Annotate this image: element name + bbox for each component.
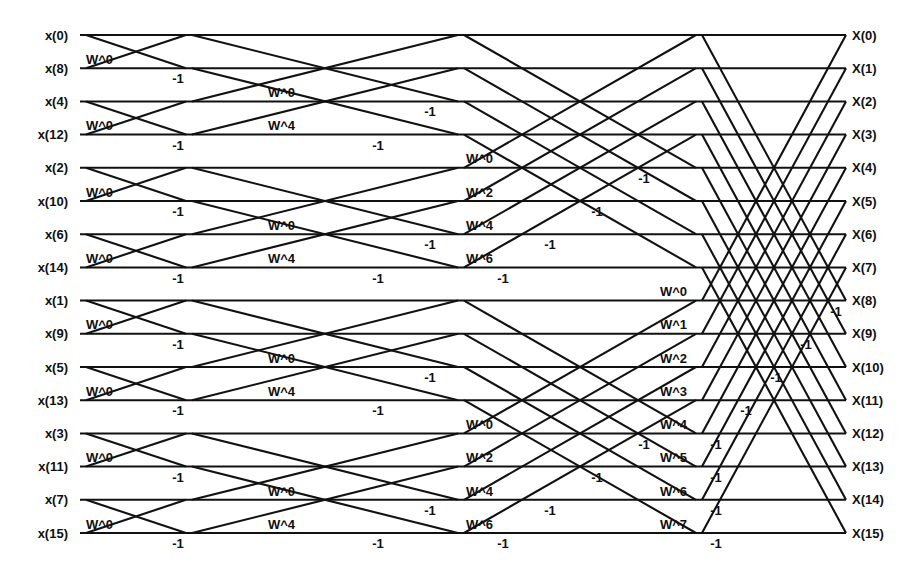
twiddle-factor-label: W^0 bbox=[660, 284, 687, 299]
minus-one-label: -1 bbox=[172, 536, 184, 551]
twiddle-factor-label: W^1 bbox=[660, 317, 687, 332]
minus-one-label: -1 bbox=[424, 503, 436, 518]
minus-one-label: -1 bbox=[372, 536, 384, 551]
minus-one-label: -1 bbox=[172, 204, 184, 219]
minus-one-label: -1 bbox=[591, 204, 603, 219]
twiddle-factor-label: W^4 bbox=[660, 417, 688, 432]
minus-one-label: -1 bbox=[424, 237, 436, 252]
minus-one-label: -1 bbox=[800, 337, 812, 352]
minus-one-label: -1 bbox=[372, 403, 384, 418]
twiddle-factor-label: W^6 bbox=[466, 251, 493, 266]
minus-one-label: -1 bbox=[172, 403, 184, 418]
output-label: X(6) bbox=[852, 227, 877, 242]
output-label: X(11) bbox=[852, 393, 883, 408]
twiddle-factor-label: W^3 bbox=[660, 384, 687, 399]
minus-one-label: -1 bbox=[372, 271, 384, 286]
twiddle-factor-label: W^0 bbox=[86, 384, 113, 399]
output-label: X(4) bbox=[852, 160, 877, 175]
twiddle-factor-label: W^0 bbox=[86, 52, 113, 67]
minus-one-label: -1 bbox=[591, 470, 603, 485]
minus-one-label: -1 bbox=[638, 171, 650, 186]
signal-rails-group bbox=[80, 35, 846, 533]
input-label: x(9) bbox=[45, 326, 68, 341]
input-label: x(13) bbox=[38, 393, 68, 408]
input-label: x(11) bbox=[38, 459, 68, 474]
output-label: X(7) bbox=[852, 260, 877, 275]
twiddle-factor-label: W^0 bbox=[86, 185, 113, 200]
output-label: X(0) bbox=[852, 28, 877, 43]
input-label: x(4) bbox=[45, 94, 68, 109]
twiddle-factor-label: W^6 bbox=[660, 484, 687, 499]
twiddle-factor-label: W^0 bbox=[268, 85, 295, 100]
output-label: X(10) bbox=[852, 360, 884, 375]
minus-one-label: -1 bbox=[172, 271, 184, 286]
twiddle-factor-label: W^6 bbox=[466, 517, 493, 532]
fft-signal-flow-svg: x(0)x(8)x(4)x(12)x(2)x(10)x(6)x(14)x(1)x… bbox=[0, 0, 914, 576]
twiddle-factor-label: W^0 bbox=[86, 118, 113, 133]
twiddle-factor-label: W^0 bbox=[86, 251, 113, 266]
twiddle-factor-label: W^5 bbox=[660, 450, 687, 465]
minus-one-label: -1 bbox=[638, 437, 650, 452]
minus-one-label: -1 bbox=[497, 271, 509, 286]
minus-one-label: -1 bbox=[544, 503, 556, 518]
output-label: X(12) bbox=[852, 426, 884, 441]
output-label: X(14) bbox=[852, 492, 884, 507]
output-label: X(1) bbox=[852, 61, 877, 76]
twiddle-factor-label: W^0 bbox=[86, 317, 113, 332]
input-label: x(3) bbox=[45, 426, 68, 441]
minus-one-label: -1 bbox=[172, 138, 184, 153]
input-label: x(1) bbox=[45, 293, 68, 308]
twiddle-factor-label: W^4 bbox=[466, 484, 494, 499]
twiddle-factor-label: W^0 bbox=[268, 484, 295, 499]
minus-one-label: -1 bbox=[830, 304, 842, 319]
twiddle-factor-label: W^4 bbox=[268, 251, 296, 266]
twiddle-factor-label: W^4 bbox=[268, 118, 296, 133]
twiddle-factor-label: W^0 bbox=[86, 517, 113, 532]
input-label: x(10) bbox=[38, 194, 68, 209]
minus-one-label: -1 bbox=[372, 138, 384, 153]
input-label: x(7) bbox=[45, 492, 68, 507]
minus-one-label: -1 bbox=[710, 470, 722, 485]
input-label: x(2) bbox=[45, 160, 68, 175]
output-labels-group: X(0)X(1)X(2)X(3)X(4)X(5)X(6)X(7)X(8)X(9)… bbox=[852, 28, 884, 541]
twiddle-factor-label: W^0 bbox=[268, 218, 295, 233]
minus-one-label: -1 bbox=[424, 104, 436, 119]
minus-one-label: -1 bbox=[710, 437, 722, 452]
output-label: X(5) bbox=[852, 194, 877, 209]
input-label: x(0) bbox=[45, 28, 68, 43]
twiddle-factor-label: W^0 bbox=[268, 351, 295, 366]
input-label: x(8) bbox=[45, 61, 68, 76]
twiddle-factor-label: W^0 bbox=[466, 417, 493, 432]
minus-one-label: -1 bbox=[172, 71, 184, 86]
input-label: x(5) bbox=[45, 360, 68, 375]
twiddle-factor-label: W^0 bbox=[86, 450, 113, 465]
minus-one-label: -1 bbox=[710, 503, 722, 518]
output-label: X(3) bbox=[852, 127, 877, 142]
minus-one-label: -1 bbox=[497, 536, 509, 551]
twiddle-factor-label: W^0 bbox=[466, 151, 493, 166]
twiddle-factor-label: W^2 bbox=[466, 185, 493, 200]
minus-one-label: -1 bbox=[172, 470, 184, 485]
minus-one-label: -1 bbox=[740, 403, 752, 418]
input-label: x(6) bbox=[45, 227, 68, 242]
twiddle-factor-label: W^2 bbox=[660, 351, 687, 366]
output-label: X(15) bbox=[852, 526, 884, 541]
output-label: X(13) bbox=[852, 459, 884, 474]
output-label: X(8) bbox=[852, 293, 877, 308]
output-label: X(9) bbox=[852, 326, 877, 341]
minus-one-label: -1 bbox=[172, 337, 184, 352]
minus-one-label: -1 bbox=[424, 370, 436, 385]
fft-butterfly-diagram: x(0)x(8)x(4)x(12)x(2)x(10)x(6)x(14)x(1)x… bbox=[0, 0, 914, 576]
twiddle-factor-label: W^4 bbox=[268, 384, 296, 399]
twiddle-factor-label: W^7 bbox=[660, 517, 687, 532]
input-labels-group: x(0)x(8)x(4)x(12)x(2)x(10)x(6)x(14)x(1)x… bbox=[38, 28, 68, 541]
twiddle-factor-label: W^4 bbox=[466, 218, 494, 233]
input-label: x(12) bbox=[38, 127, 68, 142]
minus-one-label: -1 bbox=[770, 370, 782, 385]
twiddle-factor-label: W^4 bbox=[268, 517, 296, 532]
input-label: x(14) bbox=[38, 260, 68, 275]
minus-one-label: -1 bbox=[710, 536, 722, 551]
input-label: x(15) bbox=[38, 526, 68, 541]
output-label: X(2) bbox=[852, 94, 877, 109]
minus-one-label: -1 bbox=[544, 237, 556, 252]
